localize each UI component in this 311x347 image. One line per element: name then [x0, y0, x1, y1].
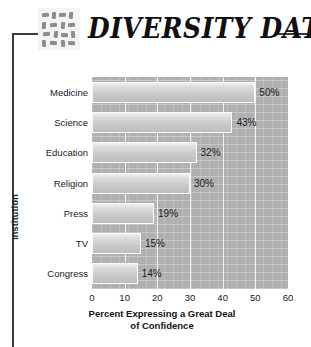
gridline — [223, 77, 224, 289]
x-axis-tick-label: 40 — [211, 292, 235, 303]
x-axis-tick-label: 60 — [276, 292, 300, 303]
y-axis-tick-label: Press — [28, 208, 88, 219]
bar-value-label: 19% — [158, 203, 178, 224]
bar — [92, 233, 141, 254]
bar — [92, 173, 190, 194]
y-axis-tick-label: Religion — [28, 178, 88, 189]
page-title: DIVERSITY DATA — [88, 10, 284, 52]
x-axis-title: Percent Expressing a Great Deal of Confi… — [38, 308, 286, 332]
x-axis-tick-labels: 0102030405060 — [92, 292, 288, 306]
y-axis-title: Institution — [10, 181, 20, 253]
y-axis-tick-label: Education — [28, 147, 88, 158]
x-axis-tick-label: 0 — [80, 292, 104, 303]
gridline — [255, 77, 256, 289]
x-axis-title-line-1: Percent Expressing a Great Deal — [38, 308, 286, 320]
bar-chart: Institution MedicineScienceEducationReli… — [0, 60, 311, 347]
plot-area: 50%43%32%30%19%15%14% — [92, 77, 288, 289]
x-axis-title-line-2: of Confidence — [38, 320, 286, 332]
bar-value-label: 43% — [236, 112, 256, 133]
grid-pattern-icon — [38, 8, 80, 50]
bar-value-label: 15% — [145, 233, 165, 254]
y-axis-tick-label: TV — [28, 238, 88, 249]
x-axis-tick-label: 50 — [243, 292, 267, 303]
y-axis-tick-label: Medicine — [28, 87, 88, 98]
x-axis-tick-label: 10 — [113, 292, 137, 303]
gridline — [190, 77, 191, 289]
bar-value-label: 30% — [194, 173, 214, 194]
bar — [92, 112, 232, 133]
bar — [92, 203, 154, 224]
x-axis-tick-label: 30 — [178, 292, 202, 303]
bar — [92, 142, 197, 163]
bar-value-label: 32% — [201, 142, 221, 163]
y-axis-tick-labels: MedicineScienceEducationReligionPressTVC… — [28, 77, 88, 289]
y-axis-tick-label: Congress — [28, 268, 88, 279]
x-axis-tick-label: 20 — [145, 292, 169, 303]
y-axis-tick-label: Science — [28, 117, 88, 128]
frame-top-left-segment — [12, 33, 38, 35]
gridline — [288, 77, 289, 289]
bar-value-label: 14% — [142, 263, 162, 284]
chart-header: DIVERSITY DATA — [38, 4, 282, 52]
bar — [92, 82, 255, 103]
bar — [92, 263, 138, 284]
bar-value-label: 50% — [259, 82, 279, 103]
diversity-data-chart-page: DIVERSITY DATA Institution MedicineScien… — [0, 0, 311, 347]
